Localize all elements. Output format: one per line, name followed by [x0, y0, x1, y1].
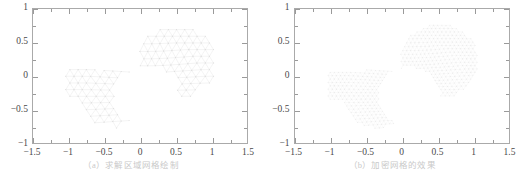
- y-tick-label: −1: [0, 139, 28, 149]
- y-tick-label: 0: [262, 71, 290, 81]
- triangular-mesh-coarse: [33, 9, 247, 143]
- y-tick-label: −0.5: [0, 105, 28, 115]
- y-tick-label: 1: [262, 3, 290, 13]
- mesh-edges: [328, 25, 477, 128]
- x-tick-label: 0.5: [432, 148, 444, 158]
- mesh-edges: [66, 30, 214, 129]
- panel-caption-a: （a）求解区域网格绘制: [0, 160, 262, 170]
- y-tick-label: −1: [262, 139, 290, 149]
- y-tick-label: 1: [0, 3, 28, 13]
- x-tick-label: −0.5: [95, 148, 112, 158]
- x-tick-label: −0.5: [357, 148, 374, 158]
- x-tick-label: 1.5: [504, 148, 516, 158]
- panel-caption-b: （b）加密网格的效果: [262, 160, 523, 170]
- y-tick-label: 0.5: [262, 37, 290, 47]
- x-tick-label: −1.5: [285, 148, 302, 158]
- x-tick-label: −1.5: [23, 148, 40, 158]
- y-tick-label: 0.5: [0, 37, 28, 47]
- mesh-nodes: [65, 29, 214, 129]
- x-tick-label: −1: [63, 148, 73, 158]
- plot-area-a: [32, 8, 248, 144]
- x-tick-label: 1: [210, 148, 215, 158]
- panel-a: −1.5−1−0.500.511.5 10.50−0.5−1 （a）求解区域网格…: [0, 0, 262, 181]
- triangular-mesh-refined: [295, 9, 509, 143]
- x-tick-label: 1.5: [242, 148, 254, 158]
- x-tick-label: 0: [138, 148, 143, 158]
- x-tick-label: −1: [324, 148, 334, 158]
- x-tick-label: 1: [471, 148, 476, 158]
- x-tick-label: 0: [399, 148, 404, 158]
- y-tick-label: −0.5: [262, 105, 290, 115]
- panel-b: −1.5−1−0.500.511.5 10.50−0.5−1 （b）加密网格的效…: [262, 0, 523, 181]
- x-tick-label: 0.5: [170, 148, 182, 158]
- y-tick-label: 0: [0, 71, 28, 81]
- figure-row: −1.5−1−0.500.511.5 10.50−0.5−1 （a）求解区域网格…: [0, 0, 523, 181]
- plot-area-b: [294, 8, 510, 144]
